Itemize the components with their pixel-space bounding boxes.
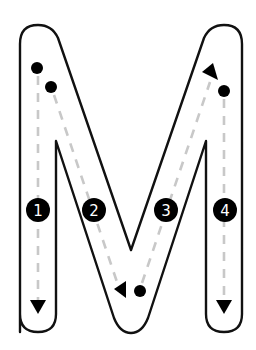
letter-m-tracing-diagram: 1 2 3 4 <box>0 0 256 350</box>
start-dot-3 <box>134 285 146 297</box>
stroke-number-1: 1 <box>26 198 50 222</box>
stroke-number-2: 2 <box>82 198 106 222</box>
start-dot-2 <box>45 81 57 93</box>
stroke-number-3-label: 3 <box>161 202 171 220</box>
start-dot-4 <box>218 85 230 97</box>
stroke-number-2-label: 2 <box>89 202 99 220</box>
start-dot-1 <box>31 62 43 74</box>
stroke-number-4-label: 4 <box>220 202 230 220</box>
stroke-number-1-label: 1 <box>33 202 43 220</box>
stroke-number-3: 3 <box>154 198 178 222</box>
stroke-number-4: 4 <box>213 198 237 222</box>
